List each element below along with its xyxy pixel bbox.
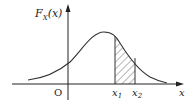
origin-label: O [54,87,62,98]
density-curve [28,32,167,83]
x-axis-arrow-icon [176,82,184,87]
x1-label: x1 [112,87,122,100]
distribution-diagram: FX(x) O x1 x2 x [0,0,194,104]
x2-label: x2 [132,87,143,100]
x-axis-label: x [179,87,185,98]
y-axis-arrow-icon [66,4,71,12]
shaded-area [115,0,135,84]
y-axis-label: FX(x) [34,7,62,22]
